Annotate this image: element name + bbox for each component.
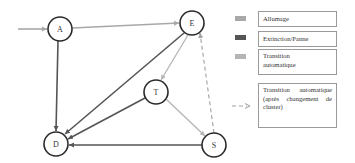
node-D-label: D <box>53 140 59 149</box>
edge-E-to-D <box>65 33 184 134</box>
edge-A-to-D <box>56 41 58 131</box>
edge-S-to-E-dashed <box>200 33 214 133</box>
legend-label-allumage: Allumage <box>258 11 337 27</box>
legend-swatch-transition <box>235 54 246 59</box>
node-T-label: T <box>154 88 159 97</box>
legend-label-transition: Transition automatique <box>258 49 337 75</box>
node-E: E <box>180 11 204 35</box>
node-T: T <box>144 80 168 104</box>
legend-swatch-extinction <box>235 35 246 40</box>
node-E-label: E <box>190 19 195 28</box>
legend-swatch-allumage <box>235 16 246 21</box>
node-S: S <box>202 133 226 157</box>
node-D: D <box>44 132 68 156</box>
node-A: A <box>48 17 72 41</box>
edge-T-to-D <box>68 98 145 139</box>
node-A-label: A <box>57 25 63 34</box>
edge-A-to-E <box>72 23 179 28</box>
legend-swatch-dashed-arrow <box>232 103 252 109</box>
edge-T-to-S <box>166 99 205 136</box>
legend-label-extinction: Extinction/Panne <box>258 31 337 47</box>
node-S-label: S <box>212 141 216 150</box>
legend-label-transition-cluster: Transition automatique (après changement… <box>258 83 337 128</box>
